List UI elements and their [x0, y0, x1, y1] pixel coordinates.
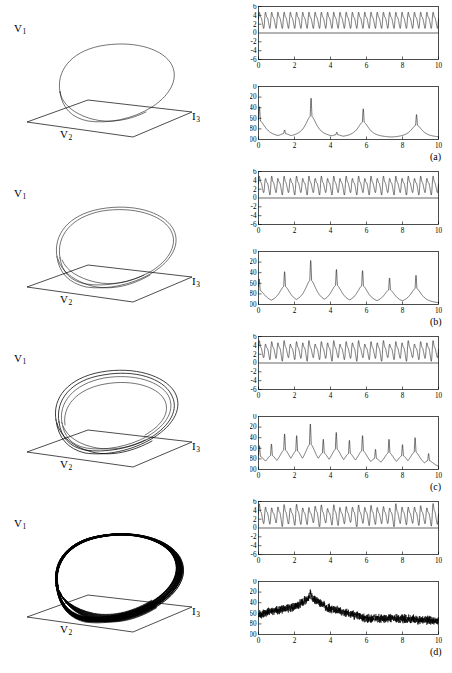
svg-text:-20: -20: [250, 588, 257, 596]
svg-text:2: 2: [293, 62, 297, 70]
svg-text:0: 0: [253, 194, 257, 202]
svg-text:0: 0: [253, 414, 257, 421]
portrait-label-v2: V2: [60, 458, 72, 470]
svg-text:8: 8: [401, 637, 405, 645]
svg-text:-60: -60: [250, 115, 257, 123]
svg-text:-60: -60: [250, 610, 257, 618]
svg-text:-2: -2: [251, 38, 257, 46]
svg-text:4: 4: [329, 142, 333, 150]
svg-text:-40: -40: [250, 269, 257, 277]
svg-text:0: 0: [257, 557, 261, 565]
panel-letter-d: (d): [430, 646, 442, 657]
svg-text:6: 6: [253, 4, 257, 11]
svg-text:-40: -40: [250, 434, 257, 442]
svg-text:10: 10: [435, 557, 443, 565]
svg-text:10: 10: [435, 142, 443, 150]
figure-container: V1 V2 I3 6 4: [0, 0, 452, 673]
svg-text:-4: -4: [251, 47, 257, 55]
timeseries-plot-d: 6 4 2 0 -2 -4 -6 0 2: [250, 499, 446, 567]
svg-text:6: 6: [253, 334, 257, 341]
panel-c: V1 V2 I3 6 4: [0, 330, 452, 495]
svg-text:4: 4: [329, 62, 333, 70]
plots-b: 6 4 2 0 -2 -4 -6 0 2: [222, 165, 452, 330]
svg-text:8: 8: [401, 472, 405, 480]
phase-portrait-c: V1 V2 I3: [0, 330, 222, 495]
svg-text:4: 4: [253, 507, 257, 515]
svg-text:2: 2: [293, 142, 297, 150]
portrait-label-v1: V1: [14, 22, 26, 34]
portrait-label-v2: V2: [60, 623, 72, 635]
panel-letter-c: (c): [430, 481, 441, 492]
svg-text:4: 4: [329, 472, 333, 480]
svg-text:-4: -4: [251, 542, 257, 550]
timeseries-plot-c: 6 4 2 0 -2 -4 -6 0 2: [250, 334, 446, 402]
svg-text:8: 8: [401, 62, 405, 70]
svg-text:2: 2: [253, 186, 257, 194]
svg-text:-40: -40: [250, 599, 257, 607]
svg-text:8: 8: [401, 307, 405, 315]
timeseries-plot-a: 6 4 2 0 -2 -4 -6 0 2: [250, 4, 446, 72]
plots-a: 6 4 2 0 -2 -4 -6 0 2: [222, 0, 452, 165]
svg-text:-20: -20: [250, 423, 257, 431]
phase-portrait-d: V1 V2 I3: [0, 495, 222, 660]
svg-text:0: 0: [257, 307, 261, 315]
svg-text:-2: -2: [251, 533, 257, 541]
svg-text:4: 4: [253, 177, 257, 185]
svg-text:8: 8: [401, 142, 405, 150]
svg-text:-80: -80: [250, 455, 257, 463]
svg-text:0: 0: [257, 62, 261, 70]
portrait-label-v2: V2: [60, 293, 72, 305]
portrait-label-v1: V1: [14, 517, 26, 529]
svg-text:4: 4: [253, 342, 257, 350]
svg-text:2: 2: [253, 516, 257, 524]
panel-letter-b: (b): [430, 316, 442, 327]
svg-text:2: 2: [253, 21, 257, 29]
svg-text:-40: -40: [250, 104, 257, 112]
svg-text:4: 4: [329, 392, 333, 400]
svg-text:0: 0: [257, 392, 261, 400]
svg-text:4: 4: [329, 637, 333, 645]
svg-text:4: 4: [253, 12, 257, 20]
svg-text:6: 6: [365, 62, 369, 70]
svg-text:2: 2: [253, 351, 257, 359]
svg-text:10: 10: [435, 472, 443, 480]
svg-text:10: 10: [435, 227, 443, 235]
svg-text:6: 6: [365, 307, 369, 315]
svg-text:0: 0: [253, 84, 257, 91]
svg-text:0: 0: [257, 637, 261, 645]
portrait-label-i3: I3: [192, 605, 199, 617]
spectrum-plot-c: 0 -20 -40 -60 -80 -100 0 2: [250, 414, 446, 484]
phase-portrait-a: V1 V2 I3: [0, 0, 222, 165]
svg-text:2: 2: [293, 472, 297, 480]
svg-text:0: 0: [253, 579, 257, 586]
svg-text:6: 6: [365, 227, 369, 235]
svg-text:6: 6: [365, 637, 369, 645]
panel-letter-a: (a): [430, 151, 441, 162]
svg-text:0: 0: [257, 227, 261, 235]
svg-text:6: 6: [365, 142, 369, 150]
svg-text:6: 6: [365, 472, 369, 480]
portrait-label-i3: I3: [192, 110, 199, 122]
svg-text:6: 6: [253, 499, 257, 506]
sp-axes-a: 0 -20 -40 -60 -80 -100 0 2: [250, 84, 443, 150]
svg-text:6: 6: [365, 557, 369, 565]
svg-text:0: 0: [253, 359, 257, 367]
portrait-label-v1: V1: [14, 187, 26, 199]
svg-text:2: 2: [293, 227, 297, 235]
svg-text:0: 0: [257, 142, 261, 150]
svg-text:0: 0: [253, 29, 257, 37]
svg-text:-20: -20: [250, 258, 257, 266]
portrait-label-v2: V2: [60, 128, 72, 140]
spectrum-plot-a: 0 -20 -40 -60 -80 -100 0 2: [250, 84, 446, 154]
svg-text:-4: -4: [251, 212, 257, 220]
svg-text:0: 0: [253, 524, 257, 532]
svg-text:8: 8: [401, 227, 405, 235]
sp-axes-b: 0 -20 -40 -60 -80 -100 0 2: [250, 249, 443, 315]
ts-axes-b: 6 4 2 0 -2 -4 -6 0 2: [251, 169, 443, 235]
svg-text:4: 4: [329, 557, 333, 565]
svg-text:4: 4: [329, 307, 333, 315]
svg-text:0: 0: [253, 249, 257, 256]
svg-text:8: 8: [401, 392, 405, 400]
svg-text:-4: -4: [251, 377, 257, 385]
svg-text:8: 8: [401, 557, 405, 565]
